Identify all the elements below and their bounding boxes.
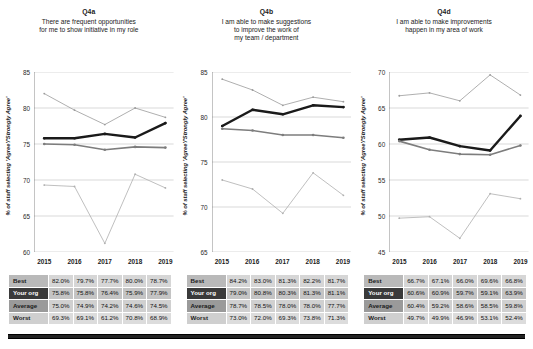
table-cell: 75.8% [49, 287, 74, 300]
y-tick-label: 60 [12, 249, 30, 256]
table-cell: 61.2% [98, 312, 123, 325]
table-row: Your org75.8%75.8%76.4%75.9%77.9% [9, 287, 172, 300]
table-cell: 46.9% [453, 312, 478, 325]
x-tick-label: 2015 [215, 258, 229, 265]
table-cell: 59.2% [428, 300, 453, 313]
x-tick-label: 2016 [245, 258, 259, 265]
table-row-label: Average [9, 300, 49, 313]
y-tick-label: 50 [367, 213, 385, 220]
table-cell: 60.4% [404, 300, 429, 313]
table-cell: 78.5% [251, 300, 276, 313]
table-cell: 78.7% [226, 300, 251, 313]
plot-canvas [212, 72, 352, 252]
y-tick-label: 70 [190, 204, 208, 211]
table-cell: 67.1% [428, 275, 453, 288]
table-cell: 58.5% [477, 300, 502, 313]
table-cell: 77.9% [147, 287, 172, 300]
question-code: Q4d [355, 8, 533, 16]
x-axis-ticks: 20152016201720182019 [212, 258, 352, 272]
table-cell: 69.3% [275, 312, 300, 325]
y-axis-title-text: % of staff selecting 'Agree'/'Strongly A… [360, 97, 366, 216]
bottom-divider [8, 334, 525, 339]
y-tick-label: 85 [190, 69, 208, 76]
summary-table: Best84.2%83.0%81.3%82.2%81.7%Your org79.… [186, 274, 350, 325]
y-tick-label: 80 [12, 105, 30, 112]
table-row-label: Best [364, 275, 404, 288]
table-row: Worst73.0%72.0%69.3%73.8%71.3% [186, 312, 349, 325]
x-tick-label: 2015 [392, 258, 406, 265]
x-tick-label: 2015 [37, 258, 51, 265]
table-row-label: Worst [186, 312, 226, 325]
table-row-label: Your org [364, 287, 404, 300]
plot-canvas [389, 72, 529, 252]
x-tick-label: 2016 [67, 258, 81, 265]
table-cell: 75.0% [49, 300, 74, 313]
table-row: Worst49.7%49.9%46.9%53.1%52.4% [364, 312, 527, 325]
table-row: Your org79.0%80.8%80.3%81.3%81.1% [186, 287, 349, 300]
table-cell: 78.0% [300, 300, 325, 313]
question-text: I am able to make improvements happen in… [355, 18, 533, 34]
table-cell: 66.0% [453, 275, 478, 288]
panel-title-block: Q4aThere are frequent opportunities for … [0, 0, 178, 66]
table-cell: 72.0% [251, 312, 276, 325]
y-axis-ticks: 606570758085 [14, 72, 32, 252]
table-cell: 80.8% [251, 287, 276, 300]
table-row: Average60.4%59.2%58.6%58.5%59.8% [364, 300, 527, 313]
table-row-label: Worst [9, 312, 49, 325]
table-row: Best84.2%83.0%81.3%82.2%81.7% [186, 275, 349, 288]
x-tick-label: 2019 [513, 258, 527, 265]
table-row: Best66.7%67.1%66.0%69.6%66.8% [364, 275, 527, 288]
x-tick-label: 2018 [306, 258, 320, 265]
table-cell: 82.2% [300, 275, 325, 288]
table-cell: 74.9% [73, 300, 98, 313]
question-text: There are frequent opportunities for me … [0, 18, 178, 34]
table-cell: 73.0% [226, 312, 251, 325]
table-cell: 75.9% [122, 287, 147, 300]
table-cell: 70.8% [122, 312, 147, 325]
table-row: Average78.7%78.5%78.0%78.0%77.7% [186, 300, 349, 313]
table-cell: 60.6% [404, 287, 429, 300]
table-row: Your org60.6%60.9%59.7%59.1%63.9% [364, 287, 527, 300]
x-tick-label: 2017 [98, 258, 112, 265]
table-cell: 59.1% [477, 287, 502, 300]
table-cell: 60.9% [428, 287, 453, 300]
x-tick-label: 2019 [336, 258, 350, 265]
y-tick-label: 70 [12, 177, 30, 184]
table-cell: 74.6% [122, 300, 147, 313]
table-cell: 78.0% [275, 300, 300, 313]
table-cell: 49.9% [428, 312, 453, 325]
table-row: Average75.0%74.9%74.2%74.6%74.5% [9, 300, 172, 313]
table-cell: 79.0% [226, 287, 251, 300]
table-cell: 84.2% [226, 275, 251, 288]
y-tick-label: 45 [367, 249, 385, 256]
table-cell: 81.1% [324, 287, 349, 300]
x-tick-label: 2018 [128, 258, 142, 265]
table-row-label: Your org [186, 287, 226, 300]
table-row-label: Your org [9, 287, 49, 300]
panel-row: Q4aThere are frequent opportunities for … [0, 0, 533, 332]
x-tick-label: 2017 [275, 258, 289, 265]
table-row-label: Best [186, 275, 226, 288]
table-cell: 63.9% [502, 287, 527, 300]
table-cell: 66.8% [502, 275, 527, 288]
table-cell: 81.3% [275, 275, 300, 288]
panel-title-block: Q4bI am able to make suggestions to impr… [178, 0, 356, 66]
chart-panel-q4d: Q4dI am able to make improvements happen… [355, 0, 533, 332]
x-axis-ticks: 20152016201720182019 [34, 258, 174, 272]
chart-panel-q4a: Q4aThere are frequent opportunities for … [0, 0, 178, 332]
x-tick-label: 2016 [423, 258, 437, 265]
table-cell: 68.9% [147, 312, 172, 325]
question-code: Q4a [0, 8, 178, 16]
summary-table: Best66.7%67.1%66.0%69.6%66.8%Your org60.… [363, 274, 527, 325]
y-tick-label: 55 [367, 177, 385, 184]
table-cell: 74.5% [147, 300, 172, 313]
chart-area: % of staff selecting 'Agree'/'Strongly A… [355, 66, 533, 271]
x-tick-label: 2017 [453, 258, 467, 265]
table-cell: 71.3% [324, 312, 349, 325]
table-row-label: Worst [364, 312, 404, 325]
table-cell: 76.4% [98, 287, 123, 300]
panel-title-block: Q4dI am able to make improvements happen… [355, 0, 533, 66]
table-cell: 69.6% [477, 275, 502, 288]
table-cell: 66.7% [404, 275, 429, 288]
x-axis-ticks: 20152016201720182019 [389, 258, 529, 272]
